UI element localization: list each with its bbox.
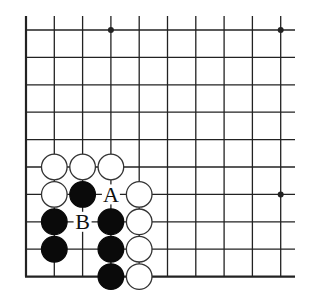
star-point-icon bbox=[278, 191, 284, 197]
go-board: AB bbox=[0, 0, 317, 306]
black-stone bbox=[98, 209, 124, 235]
white-stone bbox=[42, 154, 68, 180]
black-stone bbox=[42, 236, 68, 262]
white-stone bbox=[126, 209, 152, 235]
black-stone bbox=[42, 209, 68, 235]
white-stone bbox=[70, 154, 96, 180]
star-point-icon bbox=[108, 27, 114, 33]
white-stone bbox=[126, 264, 152, 290]
black-stone bbox=[70, 182, 96, 208]
white-stone bbox=[42, 182, 68, 208]
white-stone bbox=[98, 154, 124, 180]
white-stone bbox=[126, 236, 152, 262]
point-label-b: B bbox=[75, 209, 90, 234]
board-grid bbox=[25, 16, 295, 277]
black-stone bbox=[98, 236, 124, 262]
white-stone bbox=[126, 182, 152, 208]
black-stone bbox=[98, 264, 124, 290]
point-label-a: A bbox=[103, 182, 119, 207]
star-point-icon bbox=[278, 27, 284, 33]
